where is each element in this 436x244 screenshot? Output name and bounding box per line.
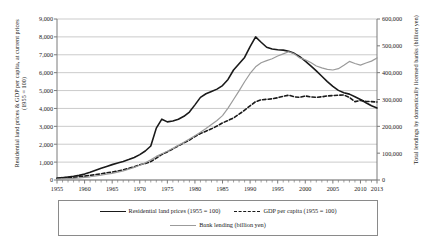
x-axis-tick-label: 1965 (101, 185, 123, 192)
x-axis-tick-label: 1955 (46, 185, 68, 192)
y-axis-right-tick-label: 0 (382, 176, 420, 183)
y-axis-left-tick-label: 7,000 (19, 51, 53, 58)
legend-item-label: Bank lending (billion yen) (199, 221, 266, 229)
y-axis-left-tick-label: 2,000 (19, 141, 53, 148)
x-axis-tick-label: 2000 (294, 185, 316, 192)
legend-swatch-icon (234, 211, 260, 212)
y-axis-left-tick-label: 4,000 (19, 105, 53, 112)
y-axis-right-tick-label: 400,000 (382, 69, 420, 76)
x-axis-tick-label: 1980 (184, 185, 206, 192)
x-axis-tick-label: 1995 (267, 185, 289, 192)
legend-row: Residential land prices (1955 = 100)GDP … (59, 207, 377, 215)
chart-legend: Residential land prices (1955 = 100)GDP … (58, 200, 378, 236)
y-axis-left-tick-label: 5,000 (19, 87, 53, 94)
x-axis-tick-label: 1990 (239, 185, 261, 192)
y-axis-left-tick-label: 0 (19, 176, 53, 183)
series-line-2 (57, 52, 377, 179)
x-axis-tick-label: 2013 (366, 185, 388, 192)
y-axis-right-tick-label: 600,000 (382, 15, 420, 22)
x-axis-tick-label: 1975 (156, 185, 178, 192)
legend-item[interactable]: Bank lending (billion yen) (170, 221, 266, 229)
series-line-1 (57, 95, 377, 178)
y-axis-left-tick-label: 3,000 (19, 123, 53, 130)
y-axis-right-tick-label: 300,000 (382, 96, 420, 103)
y-axis-left-tick-label: 9,000 (19, 15, 53, 22)
x-axis-tick-label: 1970 (129, 185, 151, 192)
y-axis-right-tick-label: 200,000 (382, 123, 420, 130)
legend-swatch-icon (100, 211, 126, 212)
legend-item[interactable]: Residential land prices (1955 = 100) (100, 207, 221, 215)
x-axis-tick-label: 1960 (74, 185, 96, 192)
legend-swatch-icon (170, 225, 196, 226)
y-axis-left-tick-label: 6,000 (19, 69, 53, 76)
y-axis-left-tick-label: 1,000 (19, 159, 53, 166)
chart-container: Residential land prices & GDP per capita… (0, 0, 436, 244)
x-axis-tick-label: 1985 (212, 185, 234, 192)
y-axis-left-tick-label: 8,000 (19, 33, 53, 40)
legend-item-label: GDP per capita (1955 = 100) (263, 207, 336, 215)
legend-item-label: Residential land prices (1955 = 100) (129, 207, 221, 215)
y-axis-right-tick-label: 500,000 (382, 42, 420, 49)
series-line-0 (57, 37, 377, 178)
legend-row: Bank lending (billion yen) (59, 221, 377, 229)
x-axis-tick-label: 2005 (322, 185, 344, 192)
y-axis-right-tick-label: 100,000 (382, 150, 420, 157)
legend-item[interactable]: GDP per capita (1955 = 100) (234, 207, 336, 215)
